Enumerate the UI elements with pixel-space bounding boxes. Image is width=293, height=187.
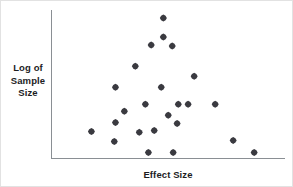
y-axis-label-line-3: Size [6,87,50,100]
funnel-plot-figure: Log of Sample Size Effect Size [0,0,293,187]
data-point [145,149,152,156]
data-point [142,101,149,108]
data-point-group [88,15,258,156]
y-axis-label-line-2: Sample [6,75,50,88]
data-point [169,43,176,50]
data-point [151,127,158,134]
data-point [170,149,177,156]
data-point [148,42,155,49]
data-point [174,120,181,127]
data-point [136,129,143,136]
data-point [112,119,119,126]
x-axis-label: Effect Size [51,169,285,180]
data-point [132,63,139,70]
data-point [185,101,192,108]
data-point [88,128,95,135]
data-point [212,101,219,108]
data-point [158,84,165,91]
data-point [230,137,237,144]
data-point [165,112,172,119]
data-point [191,73,198,80]
y-axis-label: Log of Sample Size [6,62,50,100]
data-point [251,149,258,156]
data-point [160,15,167,22]
data-point [112,84,119,91]
y-axis-label-line-1: Log of [6,62,50,75]
data-point [175,101,182,108]
data-point [121,108,128,115]
data-point [111,138,118,145]
data-point [160,34,167,41]
